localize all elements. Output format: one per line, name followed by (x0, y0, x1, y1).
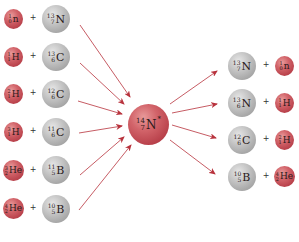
reactant-particle-3: 21H (4, 84, 23, 104)
atomic-number: 6 (51, 132, 55, 138)
arrow-in-5 (80, 137, 124, 175)
element-symbol: He (9, 204, 22, 213)
atomic-number: 0 (9, 19, 12, 24)
arrow-in-4 (79, 126, 122, 133)
atomic-number: 2 (5, 209, 8, 214)
product-residual-3: 126C (228, 126, 256, 154)
product-residual-4: 105B (228, 163, 256, 191)
reactant-particle-5: 32He (3, 160, 24, 181)
element-symbol: C (242, 135, 250, 146)
arrow-in-2 (80, 63, 124, 104)
atomic-number: 7 (140, 125, 144, 132)
plus-sign: + (261, 171, 271, 180)
reactant-target-4: 116C (42, 118, 70, 146)
product-residual-1: 137N (228, 52, 256, 80)
element-symbol: C (56, 52, 64, 63)
element-symbol: C (56, 89, 64, 100)
atomic-number: 7 (237, 66, 241, 72)
arrow-in-3 (78, 101, 122, 114)
atomic-number: 1 (7, 94, 10, 99)
atomic-number: 6 (51, 57, 55, 63)
atomic-number: 2 (5, 171, 8, 176)
arrow-in-6 (79, 145, 131, 210)
plus-sign: + (28, 13, 38, 22)
atomic-number: 6 (51, 94, 55, 100)
reactant-target-1: 137N (42, 5, 70, 33)
excited-state-marker: * (157, 116, 161, 123)
element-symbol: H (12, 53, 20, 62)
product-particle-4: 42He (274, 166, 295, 187)
reactant-target-5: 115B (42, 156, 70, 184)
element-symbol: N (56, 14, 66, 25)
arrow-out-3 (172, 125, 216, 138)
atomic-number: 2 (276, 177, 279, 182)
atomic-number: 5 (237, 177, 241, 183)
plus-sign: + (261, 60, 271, 69)
plus-sign: + (28, 203, 38, 212)
reactant-particle-4: 31H (4, 122, 23, 142)
arrow-out-4 (170, 140, 215, 174)
reaction-diagram: 10n + 137N 11H + 136C 21H + 126C 31H + 1… (0, 0, 299, 242)
element-symbol: B (242, 172, 250, 183)
element-symbol: B (56, 165, 64, 176)
plus-sign: + (261, 97, 271, 106)
element-symbol: H (283, 136, 291, 145)
arrow-out-1 (170, 71, 217, 104)
product-particle-2: 11H (275, 93, 294, 113)
plus-sign: + (28, 88, 38, 97)
reactant-particle-1: 10n (4, 9, 23, 29)
element-symbol: He (9, 166, 22, 175)
element-symbol: C (56, 127, 64, 138)
element-symbol: N (146, 119, 157, 131)
plus-sign: + (28, 165, 38, 174)
plus-sign: + (28, 51, 38, 60)
atomic-number: 5 (51, 170, 55, 176)
arrow-out-2 (172, 104, 217, 113)
atomic-number: 1 (278, 103, 281, 108)
compound-nucleus: 147N* (128, 104, 169, 145)
product-particle-1: 10n (275, 56, 294, 76)
reactant-particle-6: 42He (3, 198, 24, 219)
atomic-number: 1 (278, 140, 281, 145)
element-symbol: H (12, 128, 20, 137)
atomic-number: 6 (237, 103, 241, 109)
reactant-target-3: 126C (42, 80, 70, 108)
element-symbol: n (13, 15, 19, 24)
element-symbol: He (280, 172, 293, 181)
reactant-target-6: 105B (42, 195, 70, 223)
element-symbol: N (242, 61, 252, 72)
atomic-number: 6 (237, 140, 241, 146)
atomic-number: 0 (280, 66, 283, 71)
product-particle-3: 21H (275, 130, 294, 150)
element-symbol: B (56, 204, 64, 215)
atomic-number: 1 (7, 132, 10, 137)
atomic-number: 1 (7, 57, 10, 62)
element-symbol: H (12, 90, 20, 99)
reactant-particle-2: 11H (4, 47, 23, 67)
atomic-number: 5 (51, 209, 55, 215)
element-symbol: n (284, 62, 290, 71)
element-symbol: H (283, 99, 291, 108)
element-symbol: N (242, 98, 252, 109)
reactant-target-2: 136C (42, 43, 70, 71)
atomic-number: 7 (51, 19, 55, 25)
product-residual-2: 136N (228, 89, 256, 117)
plus-sign: + (261, 134, 271, 143)
plus-sign: + (28, 126, 38, 135)
